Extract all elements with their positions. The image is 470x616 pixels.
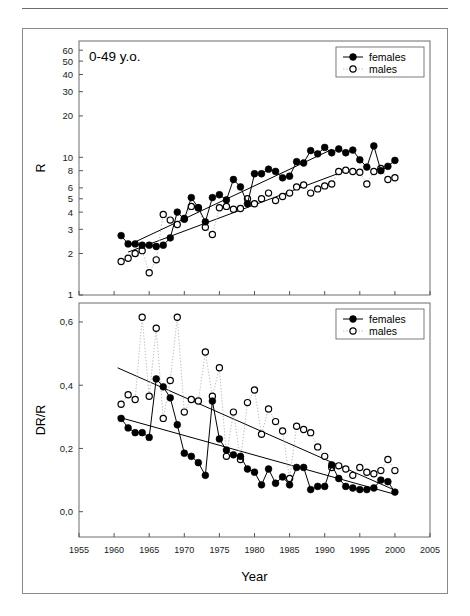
data-point-panel-top-males-34 <box>357 169 363 175</box>
data-point-panel-bottom-females-39 <box>392 489 399 496</box>
data-point-panel-bottom-males-16 <box>230 409 236 415</box>
data-point-panel-top-males-6 <box>160 211 166 217</box>
data-point-panel-bottom-females-22 <box>272 480 279 487</box>
x-axis-title: Year <box>241 569 268 584</box>
data-point-panel-top-females-37 <box>377 167 384 174</box>
data-point-panel-bottom-females-15 <box>223 447 230 454</box>
chart-panel-panel-bottom: 0,00,20,40,6DR/Rfemalesmales <box>34 303 430 537</box>
data-point-panel-top-females-5 <box>153 243 160 250</box>
y-tick-label-panel-top-3: 4 <box>68 207 73 218</box>
data-point-panel-bottom-females-30 <box>328 462 335 469</box>
data-point-panel-top-females-23 <box>279 174 286 181</box>
figure-canvas: 1234568102030405060Rfemalesmales0,00,20,… <box>23 29 447 593</box>
data-point-panel-bottom-females-31 <box>335 475 342 482</box>
x-tick-label-6: 1985 <box>280 545 300 555</box>
figure-outer-frame: 1234568102030405060Rfemalesmales0,00,20,… <box>22 28 448 594</box>
data-point-panel-bottom-females-26 <box>300 464 307 471</box>
data-point-panel-top-males-17 <box>237 205 243 211</box>
data-point-panel-bottom-males-10 <box>188 396 194 402</box>
data-point-panel-top-females-38 <box>384 163 391 170</box>
data-point-panel-top-females-28 <box>314 150 321 157</box>
legend-marker-females-panel-bottom <box>350 316 357 323</box>
data-point-panel-bottom-males-7 <box>167 377 173 383</box>
y-axis-title-panel-bottom: DR/R <box>34 405 48 436</box>
y-tick-label-panel-top-5: 6 <box>68 182 73 193</box>
data-point-panel-bottom-males-18 <box>244 400 250 406</box>
data-point-panel-top-males-22 <box>272 198 278 204</box>
data-point-panel-top-females-10 <box>188 194 195 201</box>
data-point-panel-top-males-25 <box>294 184 300 190</box>
legend-marker-males-panel-bottom <box>350 328 356 334</box>
data-point-panel-top-males-28 <box>315 186 321 192</box>
data-point-panel-top-females-3 <box>139 242 146 249</box>
data-point-panel-top-females-19 <box>251 170 258 177</box>
y-tick-label-panel-top-4: 5 <box>68 193 73 204</box>
data-point-panel-bottom-males-9 <box>181 409 187 415</box>
data-point-panel-top-females-25 <box>293 158 300 165</box>
trend-line-panel-bottom-females-trend <box>118 417 395 494</box>
data-point-panel-bottom-males-12 <box>202 349 208 355</box>
x-tick-label-2: 1965 <box>139 545 159 555</box>
data-point-panel-top-females-4 <box>146 242 153 249</box>
data-point-panel-bottom-males-36 <box>371 471 377 477</box>
data-point-panel-top-males-39 <box>392 175 398 181</box>
data-point-panel-bottom-females-13 <box>209 398 216 405</box>
y-tick-label-panel-top-2: 3 <box>68 224 73 235</box>
series-line-panel-top-females <box>121 146 395 247</box>
data-point-panel-bottom-males-33 <box>350 472 356 478</box>
x-tick-label-10: 2005 <box>420 545 440 555</box>
y-tick-label-panel-top-12: 60 <box>62 45 73 56</box>
data-point-panel-bottom-females-36 <box>370 485 377 492</box>
data-point-panel-top-females-39 <box>392 157 399 164</box>
y-tick-label-panel-bottom-1: 0,2 <box>60 443 73 454</box>
data-point-panel-top-females-7 <box>167 234 174 241</box>
data-point-panel-bottom-females-10 <box>188 453 195 460</box>
y-tick-label-panel-top-7: 10 <box>62 152 73 163</box>
data-point-panel-bottom-males-32 <box>343 466 349 472</box>
data-point-panel-top-females-1 <box>125 241 132 248</box>
legend-label-males-panel-top: males <box>369 63 397 75</box>
data-point-panel-top-females-33 <box>349 147 356 154</box>
data-point-panel-bottom-males-19 <box>251 387 257 393</box>
data-point-panel-bottom-males-15 <box>223 453 229 459</box>
x-tick-label-3: 1970 <box>174 545 194 555</box>
data-point-panel-top-females-11 <box>195 204 202 211</box>
x-tick-label-5: 1980 <box>244 545 264 555</box>
data-point-panel-top-males-33 <box>350 168 356 174</box>
data-point-panel-bottom-males-28 <box>315 444 321 450</box>
data-point-panel-bottom-females-20 <box>258 481 265 488</box>
data-point-panel-bottom-males-25 <box>294 423 300 429</box>
data-point-panel-top-males-19 <box>251 201 257 207</box>
data-point-panel-bottom-females-18 <box>244 466 251 473</box>
data-point-panel-top-females-36 <box>370 143 377 150</box>
data-point-panel-bottom-females-2 <box>132 429 139 436</box>
data-point-panel-bottom-males-29 <box>322 453 328 459</box>
y-tick-label-panel-top-10: 40 <box>62 69 73 80</box>
data-point-panel-top-females-15 <box>223 197 230 204</box>
data-point-panel-top-males-5 <box>153 257 159 263</box>
data-point-panel-bottom-females-1 <box>125 425 132 432</box>
data-point-panel-bottom-males-3 <box>139 314 145 320</box>
legend-label-females-panel-bottom: females <box>369 313 406 325</box>
data-point-panel-top-males-26 <box>301 182 307 188</box>
data-point-panel-bottom-females-7 <box>167 394 174 401</box>
data-point-panel-top-females-13 <box>209 194 216 201</box>
data-point-panel-top-females-16 <box>230 176 237 183</box>
data-point-panel-bottom-females-3 <box>139 429 146 436</box>
data-point-panel-bottom-males-26 <box>301 426 307 432</box>
data-point-panel-bottom-males-37 <box>378 467 384 473</box>
y-tick-label-panel-bottom-0: 0,0 <box>60 506 73 517</box>
x-tick-label-8: 1995 <box>350 545 370 555</box>
y-tick-label-panel-top-11: 50 <box>62 56 73 67</box>
figure-page: 1234568102030405060Rfemalesmales0,00,20,… <box>0 0 470 616</box>
data-point-panel-top-females-6 <box>160 242 167 249</box>
data-point-panel-bottom-females-17 <box>237 453 244 460</box>
data-point-panel-bottom-females-5 <box>153 375 160 382</box>
data-point-panel-top-females-27 <box>307 147 314 154</box>
data-point-panel-bottom-males-0 <box>118 401 124 407</box>
data-point-panel-top-males-29 <box>322 183 328 189</box>
data-point-panel-bottom-males-20 <box>258 431 264 437</box>
data-point-panel-top-females-20 <box>258 170 265 177</box>
data-point-panel-top-males-20 <box>258 196 264 202</box>
data-point-panel-bottom-males-22 <box>272 418 278 424</box>
